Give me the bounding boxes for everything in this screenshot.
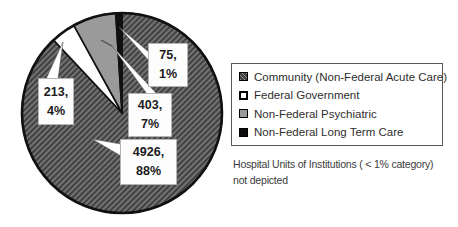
data-label-community: 4926, 88% <box>120 139 177 185</box>
legend-swatch-hatched-icon <box>239 72 248 81</box>
data-label-federal-government-value: 213, <box>44 83 68 102</box>
legend-item-federal-government: Federal Government <box>239 89 442 101</box>
legend-item-long-term-care: Non-Federal Long Term Care <box>239 126 442 138</box>
legend-item-psychiatric: Non-Federal Psychiatric <box>239 108 442 120</box>
data-label-community-percent: 88% <box>136 162 161 181</box>
data-label-federal-government-percent: 4% <box>47 102 65 121</box>
data-label-community-value: 4926, <box>133 143 164 162</box>
data-label-psychiatric-value: 403, <box>138 96 162 115</box>
footnote-line2: not depicted <box>233 172 451 188</box>
legend-label-federal-government: Federal Government <box>254 89 359 101</box>
data-label-long-term-care: 75, 1% <box>148 43 188 87</box>
legend-label-psychiatric: Non-Federal Psychiatric <box>254 108 377 120</box>
data-label-psychiatric-percent: 7% <box>141 115 159 134</box>
data-label-long-term-care-percent: 1% <box>159 65 177 84</box>
legend-label-long-term-care: Non-Federal Long Term Care <box>254 126 403 138</box>
data-label-psychiatric: 403, 7% <box>128 93 172 137</box>
footnote-line1: Hospital Units of Institutions ( < 1% ca… <box>233 156 451 172</box>
legend-label-community: Community (Non-Federal Acute Care) <box>254 71 447 83</box>
legend: Community (Non-Federal Acute Care) Feder… <box>231 63 443 146</box>
footnote: Hospital Units of Institutions ( < 1% ca… <box>233 156 451 189</box>
hospital-ownership-pie-figure: 75, 1% 403, 7% 213, 4% 4926, 88% Communi… <box>0 0 458 227</box>
legend-swatch-black-icon <box>239 128 248 137</box>
legend-swatch-white-icon <box>239 91 248 100</box>
legend-swatch-gray-icon <box>239 109 248 118</box>
legend-item-community: Community (Non-Federal Acute Care) <box>239 71 442 83</box>
data-label-long-term-care-value: 75, <box>159 46 176 65</box>
data-label-federal-government: 213, 4% <box>38 78 74 125</box>
